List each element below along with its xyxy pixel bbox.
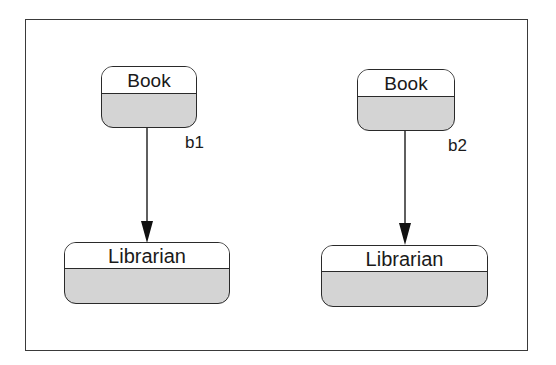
link-label-b1: b1 — [185, 133, 204, 153]
link-label-b2: b2 — [448, 136, 467, 156]
librarian-class-box-2[interactable]: Librarian — [321, 245, 488, 307]
librarian-class-box-1[interactable]: Librarian — [64, 242, 230, 304]
class-name-compartment: Librarian — [322, 246, 487, 272]
association-arrows — [0, 0, 556, 365]
class-name-compartment: Librarian — [65, 243, 229, 269]
arrowhead-icon — [141, 221, 153, 243]
book-class-box-1[interactable]: Book — [101, 66, 197, 128]
book-class-box-2[interactable]: Book — [357, 69, 455, 131]
arrow-b1 — [141, 127, 153, 243]
class-name-compartment: Book — [102, 67, 196, 94]
arrow-b2 — [399, 130, 411, 245]
arrowhead-icon — [399, 223, 411, 245]
class-name-compartment: Book — [358, 70, 454, 97]
